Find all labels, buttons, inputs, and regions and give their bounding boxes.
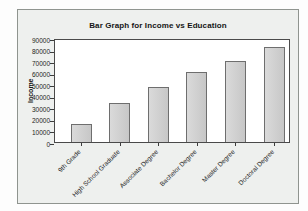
y-tick-mark — [50, 63, 54, 64]
chart-panel: Bar Graph for Income vs Education Income… — [17, 9, 299, 204]
x-tick-mark — [235, 143, 236, 146]
y-tick-label: 0 — [20, 141, 50, 148]
y-tick-mark — [50, 75, 54, 76]
x-category-label: 9th Grade — [57, 148, 82, 173]
bar — [264, 47, 285, 142]
y-tick-mark — [50, 109, 54, 110]
y-tick-label: 50000 — [20, 83, 50, 90]
y-tick-label: 20000 — [20, 117, 50, 124]
y-tick-label: 70000 — [20, 60, 50, 67]
x-category-label: Master Degree — [201, 148, 236, 183]
bar — [148, 87, 169, 142]
x-tick-mark — [120, 143, 121, 146]
x-tick-mark — [81, 143, 82, 146]
y-tick-mark — [50, 98, 54, 99]
x-tick-mark — [197, 143, 198, 146]
y-tick-label: 30000 — [20, 106, 50, 113]
y-tick-mark — [50, 52, 54, 53]
figure-canvas: Bar Graph for Income vs Education Income… — [0, 0, 308, 211]
x-tick-mark — [158, 143, 159, 146]
bar — [186, 72, 207, 142]
x-category-label: Associate Degree — [118, 148, 159, 189]
y-tick-label: 40000 — [20, 94, 50, 101]
x-category-label: Doctoral Degree — [237, 148, 275, 186]
y-tick-mark — [50, 40, 54, 41]
chart-title: Bar Graph for Income vs Education — [18, 21, 298, 30]
x-tick-mark — [274, 143, 275, 146]
y-tick-label: 90000 — [20, 37, 50, 44]
y-tick-mark — [50, 86, 54, 87]
bar — [71, 124, 92, 142]
x-category-label: Bachelor Degree — [158, 148, 197, 187]
y-tick-label: 60000 — [20, 71, 50, 78]
y-tick-mark — [50, 132, 54, 133]
y-tick-label: 10000 — [20, 129, 50, 136]
y-tick-mark — [50, 121, 54, 122]
y-tick-mark — [50, 144, 54, 145]
bar — [225, 61, 246, 142]
bar — [109, 103, 130, 142]
y-tick-label: 80000 — [20, 48, 50, 55]
plot-area: 0100002000030000400005000060000700008000… — [54, 39, 290, 143]
